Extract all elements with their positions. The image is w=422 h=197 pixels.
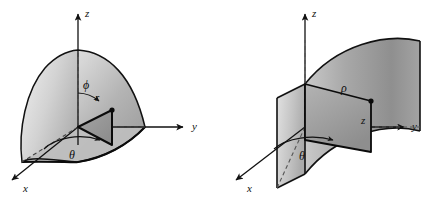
axis-x-label: x	[22, 182, 28, 194]
rho-label: ρ	[340, 81, 347, 95]
angle-theta-label: θ	[69, 148, 75, 162]
height-z-label: z	[360, 114, 366, 126]
axis-z-label: z	[84, 7, 90, 19]
axis-y-label: y	[411, 120, 417, 132]
rho-endpoint-marker	[368, 98, 373, 103]
figure-root: z y x ϕ r	[0, 0, 422, 197]
sphere-octant-surface	[21, 50, 145, 162]
axis-z-label: z	[311, 7, 317, 19]
point-marker	[109, 107, 114, 112]
angle-phi-label: ϕ	[83, 78, 89, 92]
axis-y-label: y	[191, 120, 197, 132]
angle-theta-label: θ	[299, 149, 305, 163]
spherical-coordinates-diagram: z y x ϕ r	[0, 0, 211, 197]
radius-r-label: r	[95, 91, 100, 103]
axis-x-label: x	[246, 182, 252, 194]
cylindrical-coordinates-diagram: z y x ρ z θ	[211, 0, 422, 197]
